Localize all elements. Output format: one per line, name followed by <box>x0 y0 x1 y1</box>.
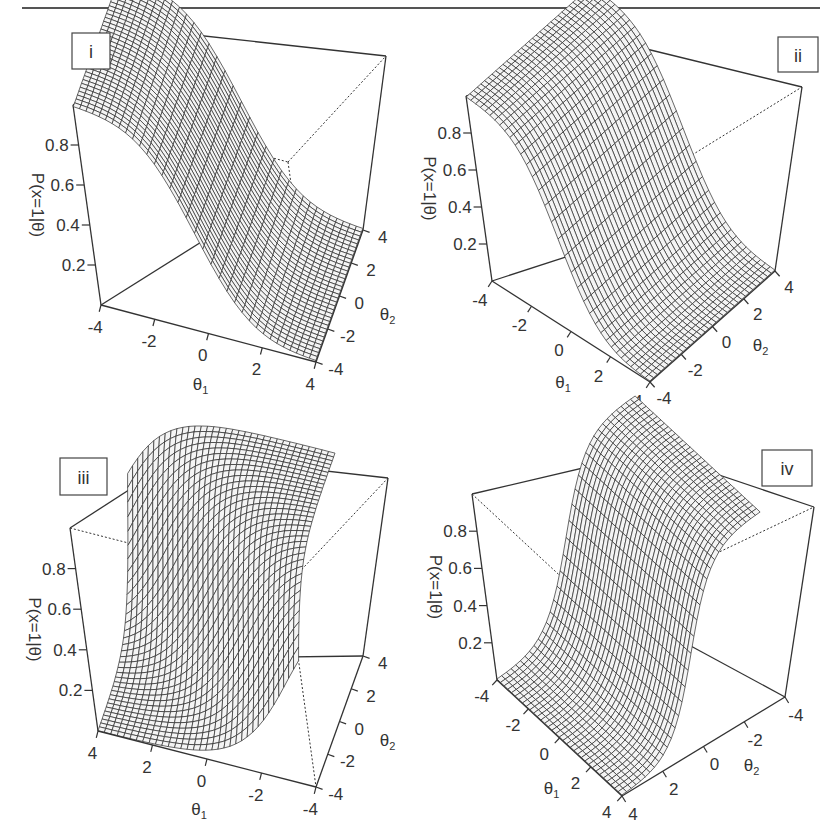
y-tick-label: 4 <box>628 805 637 824</box>
y-tick-label: 2 <box>669 780 678 799</box>
panel-iv: 0.20.40.60.8P(x=1|θ)-4-2024θ1420-2-4θ2iv <box>426 396 815 824</box>
x-tick <box>586 767 591 772</box>
x-tick-label: 2 <box>571 774 580 793</box>
box-edge <box>101 234 214 305</box>
x-axis-label: θ1 <box>191 800 207 821</box>
x-tick <box>488 281 492 287</box>
x-tick-label: -4 <box>88 318 103 337</box>
y-tick-label: 0 <box>355 294 364 313</box>
x-tick-label: 0 <box>197 772 206 791</box>
x-tick-label: -4 <box>303 800 318 819</box>
x-tick <box>314 787 316 794</box>
y-tick <box>363 656 370 658</box>
y-tick <box>744 722 748 728</box>
x-axis-label: θ1 <box>193 375 209 396</box>
z-tick-label: 0.6 <box>443 161 467 180</box>
y-tick-label: -2 <box>340 752 355 771</box>
panel-iii: 0.20.40.60.8P(x=1|θ)420-2-4θ1-4-2024θ2ii… <box>25 426 395 821</box>
x-tick-label: 2 <box>252 360 261 379</box>
x-tick-label: -4 <box>474 687 489 706</box>
z-tick-label: 0.6 <box>51 176 75 195</box>
z-tick-label: 0.4 <box>53 641 77 660</box>
z-tick-label: 0.8 <box>438 124 462 143</box>
y-tick <box>340 722 347 724</box>
y-tick <box>316 362 323 364</box>
y-tick-label: -2 <box>340 327 355 346</box>
y-tick-label: 2 <box>366 687 375 706</box>
z-axis-label: P(x=1|θ) <box>28 173 47 237</box>
y-tick <box>316 787 323 789</box>
x-tick-label: 0 <box>198 346 207 365</box>
box-edge <box>785 507 814 697</box>
x-tick-label: 2 <box>142 758 151 777</box>
box-edge <box>363 56 386 230</box>
y-axis-label: θ2 <box>753 336 769 357</box>
x-axis-label: θ1 <box>544 779 560 800</box>
y-axis-label: θ2 <box>744 756 760 777</box>
y-tick <box>328 329 335 331</box>
z-axis-label: P(x=1|θ) <box>25 597 44 661</box>
z-tick-label: 0.8 <box>45 136 69 155</box>
box-edge <box>186 34 386 56</box>
z-axis <box>70 528 98 731</box>
y-tick-label: -4 <box>788 706 803 725</box>
y-tick <box>363 230 370 232</box>
x-tick <box>555 738 560 743</box>
x-tick <box>646 382 650 388</box>
x-tick <box>260 348 262 355</box>
x-axis-label: θ1 <box>555 373 571 394</box>
y-tick <box>340 296 347 298</box>
z-axis-label: P(x=1|θ) <box>420 156 439 220</box>
y-tick <box>704 747 708 753</box>
z-axis <box>73 105 101 305</box>
y-tick-label: -2 <box>748 731 763 750</box>
surface-mesh <box>98 426 335 750</box>
z-tick-label: 0.2 <box>458 634 482 653</box>
x-tick <box>607 357 611 363</box>
y-tick-label: 2 <box>753 305 762 324</box>
panel-label: iii <box>78 468 90 488</box>
x-tick-label: 4 <box>306 375 315 394</box>
panel-ii: 0.20.40.60.8P(x=1|θ)-4-2024θ1-4-2024θ2ii <box>420 0 818 411</box>
x-tick <box>99 305 101 312</box>
panel-label: i <box>89 42 93 62</box>
x-tick-label: -2 <box>141 332 156 351</box>
x-tick <box>96 731 98 738</box>
x-tick <box>314 362 316 369</box>
y-tick-label: 4 <box>378 228 387 247</box>
y-tick <box>663 771 667 777</box>
x-tick-label: -4 <box>472 291 487 310</box>
z-tick-label: 0.8 <box>443 522 467 541</box>
y-axis-label: θ2 <box>380 731 396 752</box>
panel-label: iv <box>781 459 794 479</box>
x-tick-label: -2 <box>512 316 527 335</box>
x-tick-label: -2 <box>505 716 520 735</box>
x-tick <box>153 319 155 326</box>
panel-i: 0.20.40.60.8P(x=1|θ)-4-2024θ1-4-2024θ2i <box>28 0 395 395</box>
panel-label: ii <box>794 46 802 66</box>
y-tick <box>713 327 718 332</box>
y-tick-label: 0 <box>710 755 719 774</box>
x-tick <box>260 773 262 780</box>
z-tick-label: 0.6 <box>448 559 472 578</box>
y-tick <box>351 689 358 691</box>
z-tick-label: 0.2 <box>453 235 477 254</box>
box-edge <box>363 478 388 656</box>
box-edge <box>775 87 802 271</box>
y-tick-label: -4 <box>328 360 343 379</box>
x-tick <box>151 745 153 752</box>
y-tick-label: -4 <box>328 785 343 804</box>
z-tick-label: 0.2 <box>62 256 86 275</box>
y-tick-label: 4 <box>378 654 387 673</box>
z-tick-label: 0.6 <box>48 600 72 619</box>
x-tick <box>205 759 207 766</box>
surface-mesh <box>73 0 363 360</box>
x-tick <box>492 680 497 685</box>
z-tick-label: 0.4 <box>448 198 472 217</box>
y-tick <box>775 271 780 276</box>
z-axis-label: P(x=1|θ) <box>426 555 445 619</box>
x-tick-label: 4 <box>602 803 611 822</box>
y-tick <box>744 299 749 304</box>
figure-canvas: 0.20.40.60.8P(x=1|θ)-4-2024θ1-4-2024θ2i … <box>0 0 839 836</box>
y-tick-label: -4 <box>656 389 671 408</box>
